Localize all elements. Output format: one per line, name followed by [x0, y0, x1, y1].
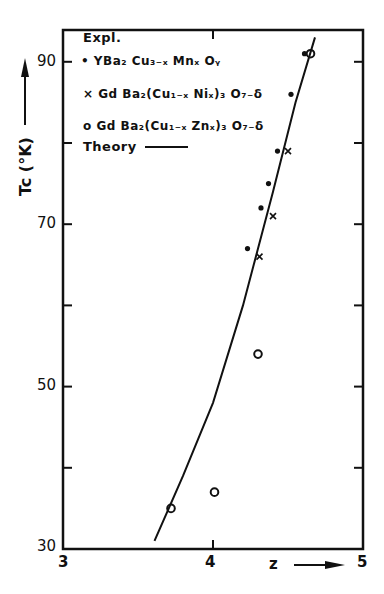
cross-marker	[285, 148, 291, 154]
dot-marker	[275, 149, 280, 154]
legend-entry-text: Gd Ba₂(Cu₁₋ₓ Znₓ)₃ O₇₋δ	[96, 119, 263, 133]
circle-marker	[254, 350, 262, 358]
legend-entry-gd-ni: × Gd Ba₂(Cu₁₋ₓ Niₓ)₃ O₇₋δ	[83, 87, 262, 101]
legend-marker-cross-icon: ×	[83, 87, 94, 101]
legend-marker-circle-icon: o	[83, 119, 92, 133]
y-axis-arrow-head	[21, 58, 29, 77]
cross-marker	[257, 254, 263, 260]
theory-line	[155, 37, 316, 541]
circle-marker	[211, 488, 219, 496]
legend-entry-ymn: • YBa₂ Cu₃₋ₓ Mnₓ Oᵧ	[81, 54, 221, 68]
legend-marker-dot-icon: •	[81, 54, 89, 68]
dot-marker	[266, 181, 271, 186]
x-tick-label-3: 3	[58, 553, 68, 571]
axis-ticks	[63, 30, 363, 549]
x-tick-label-5: 5	[357, 553, 367, 571]
y-tick-label-90: 90	[37, 52, 56, 70]
x-tick-label-4: 4	[205, 553, 215, 571]
plot-frame	[63, 30, 363, 549]
y-tick-label-50: 50	[37, 376, 56, 394]
y-axis-label: Tc (°K)	[16, 137, 35, 196]
legend-title: Expl.	[83, 30, 121, 45]
legend-entry-text: Gd Ba₂(Cu₁₋ₓ Niₓ)₃ O₇₋δ	[98, 87, 262, 101]
legend-entry-gd-zn: o Gd Ba₂(Cu₁₋ₓ Znₓ)₃ O₇₋δ	[83, 119, 264, 133]
legend-entry-theory: Theory	[83, 139, 137, 154]
legend-entry-text: YBa₂ Cu₃₋ₓ Mnₓ Oᵧ	[94, 54, 221, 68]
dot-marker	[245, 246, 250, 251]
dot-marker	[288, 92, 293, 97]
legend-entry-text: Theory	[83, 139, 137, 154]
y-tick-label-70: 70	[37, 214, 56, 232]
y-tick-label-30: 30	[37, 537, 56, 555]
dot-marker	[258, 205, 263, 210]
x-axis-arrow-head	[325, 561, 345, 569]
theory-curve	[155, 37, 316, 541]
cross-marker	[270, 213, 276, 219]
x-axis-label: z	[269, 555, 278, 573]
